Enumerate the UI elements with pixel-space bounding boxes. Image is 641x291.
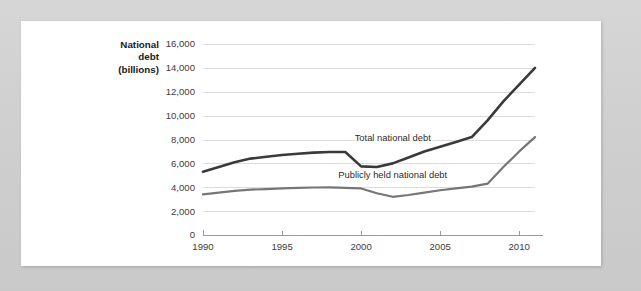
x-tick-label-2010: 2010 <box>509 241 530 252</box>
series-inline-labels: Total national debtTotal national debtPu… <box>338 132 447 180</box>
y-tick-label-8000: 8,000 <box>171 134 195 145</box>
series-line-total-national-debt <box>203 68 535 172</box>
y-tick-label-10000: 10,000 <box>166 110 195 121</box>
series-label-publicly-held-national-debt: Publicly held national debt <box>338 169 447 180</box>
series-label-total-national-debt: Total national debt <box>355 132 431 143</box>
gridlines <box>203 45 535 212</box>
y-axis-title-line-3: (billions) <box>118 64 159 75</box>
y-tick-label-2000: 2,000 <box>171 206 195 217</box>
y-tick-label-16000: 16,000 <box>166 38 195 49</box>
x-tick-label-2000: 2000 <box>350 241 371 252</box>
y-tick-label-12000: 12,000 <box>166 86 195 97</box>
y-tick-label-4000: 4,000 <box>171 182 195 193</box>
x-tick-label-1995: 1995 <box>271 241 292 252</box>
y-axis-tick-labels: 02,0004,0006,0008,00010,00012,00014,0001… <box>166 38 195 240</box>
chart-canvas: 02,0004,0006,0008,00010,00012,00014,0001… <box>0 0 641 291</box>
y-tick-label-0: 0 <box>190 229 195 240</box>
y-axis-title-line-2: debt <box>138 51 159 62</box>
axes <box>203 230 543 236</box>
x-tick-label-1990: 1990 <box>192 241 213 252</box>
y-axis-title: Nationaldebt(billions) <box>118 39 160 75</box>
y-tick-label-14000: 14,000 <box>166 62 195 73</box>
x-axis-tick-labels: 19901995200020052010 <box>192 241 530 252</box>
x-axis-ticks <box>204 231 520 236</box>
y-tick-label-6000: 6,000 <box>171 158 195 169</box>
x-tick-label-2005: 2005 <box>429 241 450 252</box>
y-axis-title-line-1: National <box>120 39 159 50</box>
line-chart: 02,0004,0006,0008,00010,00012,00014,0001… <box>0 0 641 291</box>
